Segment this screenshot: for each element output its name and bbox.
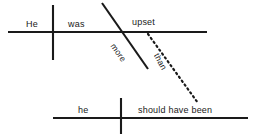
word-main-verb: was (68, 20, 85, 29)
word-subordinate-subject: he (78, 106, 88, 115)
diagram-canvas (0, 0, 255, 134)
word-main-subject: He (26, 20, 38, 29)
sentence-diagram: He was upset more than he should have be… (0, 0, 255, 134)
word-main-complement: upset (132, 18, 155, 27)
than-connector-dotted-line (148, 34, 198, 103)
word-subordinate-verb: should have been (138, 106, 212, 115)
